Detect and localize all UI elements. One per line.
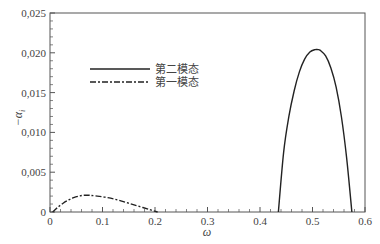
tick-labels: 00.10.20.30.40.50.600,0050,0100,0150,020… <box>21 7 372 227</box>
major-ticks <box>50 13 365 212</box>
series-layer <box>53 49 352 212</box>
x-tick-label: 0.6 <box>358 215 372 227</box>
minor-ticks <box>50 21 355 212</box>
svg-text:−αi: −αi <box>11 110 27 127</box>
y-tick-label: 0,020 <box>21 47 46 59</box>
y-axis-label-main: −α <box>11 111 25 126</box>
series-mode2-line <box>278 49 352 212</box>
y-tick-label: 0 <box>41 206 47 218</box>
plot-frame <box>50 13 365 212</box>
x-tick-label: 0.2 <box>148 215 162 227</box>
series-mode1-line <box>53 195 158 212</box>
y-tick-label: 0,005 <box>21 166 46 178</box>
legend-label-mode2: 第二模态 <box>155 62 199 76</box>
x-tick-label: 0 <box>47 215 53 227</box>
x-axis-label: ω <box>203 225 211 239</box>
y-tick-label: 0,025 <box>21 7 46 19</box>
x-tick-label: 0.1 <box>96 215 110 227</box>
y-tick-label: 0,010 <box>21 126 46 138</box>
y-axis-label: −αi <box>11 110 27 127</box>
chart: 00.10.20.30.40.50.600,0050,0100,0150,020… <box>0 0 380 244</box>
x-tick-label: 0.4 <box>253 215 267 227</box>
y-axis-label-sub: i <box>18 110 27 112</box>
y-tick-label: 0,015 <box>21 87 46 99</box>
x-tick-label: 0.5 <box>306 215 320 227</box>
legend: 第二模态 第一模态 <box>90 62 199 89</box>
legend-label-mode1: 第一模态 <box>155 75 199 89</box>
